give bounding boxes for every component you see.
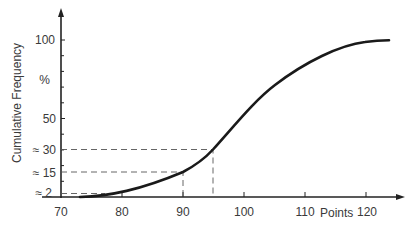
x-tick-label-80: 80 [115, 205, 129, 219]
x-tick-label-90: 90 [176, 205, 190, 219]
dashed-guides [61, 150, 213, 198]
y-tick-label-30: ≈ 30 [33, 143, 57, 157]
x-tick-label-100: 100 [234, 205, 254, 219]
x-tick-label-110: 110 [295, 205, 314, 219]
y-unit-label: % [39, 73, 50, 87]
cumulative-curve [80, 40, 389, 197]
y-axis-title: Cumulative Frequency [10, 43, 24, 163]
x-axis-title: Points [320, 206, 353, 220]
y-tick-label-15: ≈ 15 [33, 166, 57, 180]
y-tick-label-100: 100 [35, 33, 55, 47]
y-tick-label-2: ≈ 2 [35, 186, 52, 200]
cumulative-frequency-chart: 100 % 50 ≈ 30 ≈ 15 ≈ 2 Cumulative Freque… [0, 0, 413, 226]
guide-30 [61, 150, 213, 198]
x-tick-label-120: 120 [357, 205, 377, 219]
y-tick-label-50: 50 [43, 112, 57, 126]
x-axis-arrow-icon [396, 194, 405, 200]
y-axis-arrow-icon [58, 8, 64, 17]
x-tick-label-70: 70 [54, 205, 68, 219]
